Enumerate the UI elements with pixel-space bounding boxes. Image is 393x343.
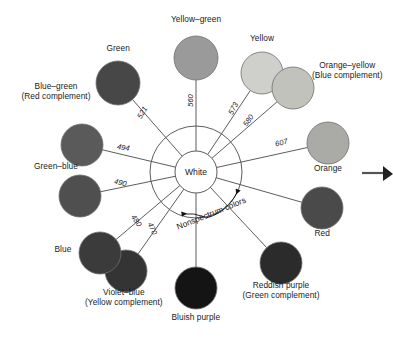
label-violet-blue: Violet–blue(Yellow complement) [85,287,163,308]
label-yellow-name: Yellow [250,33,274,43]
swatch-green-blue [59,175,101,217]
swatch-orange-yellow [272,67,314,109]
label-bluish-purple-name: Bluish purple [172,312,221,322]
swatch-green [96,61,140,105]
swatch-reddish-purple [260,242,302,284]
spoke-green-blue [101,176,176,191]
swatch-yellow-green [174,36,218,80]
label-green-blue-name: Green–blue [34,161,78,171]
label-violet-blue-complement: (Yellow complement) [85,297,163,308]
label-orange-yellow: Orange–yellow(Blue complement) [312,60,382,81]
spoke-orange-yellow [212,102,277,159]
label-red: Red [315,228,330,239]
label-red-name: Red [315,228,330,238]
spoke-blue-green [102,150,175,167]
wavelength-560: 560 [185,94,194,107]
label-blue-green: Blue–green(Red complement) [22,81,91,102]
color-circle-figure: Yellow–greenYellowOrange–yellow(Blue com… [0,0,393,343]
swatch-bluish-purple [175,267,217,309]
spoke-red [216,178,302,202]
label-yellow-green-name: Yellow–green [171,14,221,24]
wavelength-494: 494 [116,142,130,153]
center-white-label: White [185,167,207,177]
label-blue-name: Blue [55,244,72,254]
label-bluish-purple: Bluish purple [172,312,221,323]
label-reddish-purple-name: Reddish purple [253,280,310,290]
label-orange: Orange [314,163,342,174]
label-green-blue: Green–blue [34,161,78,172]
label-yellow: Yellow [250,33,274,44]
label-orange-yellow-complement: (Blue complement) [312,70,382,81]
cropped-adjacent-caption [371,168,393,343]
label-reddish-purple-complement: (Green complement) [243,290,320,301]
label-blue-green-name: Blue–green [35,81,78,91]
swatch-blue [79,232,121,274]
label-blue: Blue [55,244,72,255]
label-orange-yellow-name: Orange–yellow [319,60,375,70]
swatch-red [301,187,343,229]
label-orange-name: Orange [314,163,342,173]
label-green-name: Green [107,43,130,53]
label-violet-blue-name: Violet–blue [103,287,144,297]
label-reddish-purple: Reddish purple(Green complement) [243,280,320,301]
label-blue-green-complement: (Red complement) [22,91,91,102]
label-green: Green [107,43,130,54]
spoke-orange [217,148,308,168]
swatch-orange [307,122,349,164]
label-yellow-green: Yellow–green [171,14,221,25]
